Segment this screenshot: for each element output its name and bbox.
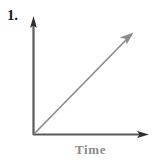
trend-line — [34, 40, 127, 135]
arrow-up-right-icon — [120, 33, 134, 45]
graph-figure: 1. Time — [0, 0, 160, 165]
x-axis-label: Time — [33, 143, 148, 156]
graph-canvas — [0, 0, 160, 165]
